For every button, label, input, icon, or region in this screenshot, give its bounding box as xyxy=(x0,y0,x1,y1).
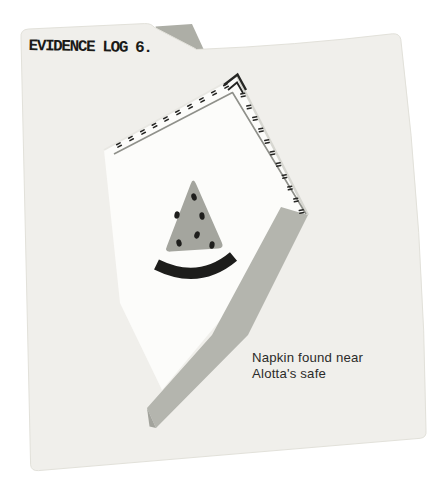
napkin-caption-line2: Alotta's safe xyxy=(252,366,326,381)
evidence-folder-card[interactable]: EVIDENCE LOG 6. xyxy=(21,24,426,471)
napkin-caption-line1: Napkin found near xyxy=(252,350,364,365)
evidence-log-screen: EVIDENCE LOG 6. xyxy=(0,0,429,494)
folder-tab-label: EVIDENCE LOG 6. xyxy=(28,37,151,57)
